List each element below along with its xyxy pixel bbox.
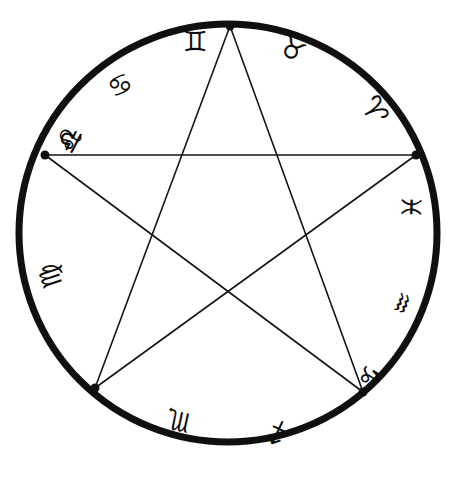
zodiac-sign-gemini[interactable]: ♊ bbox=[182, 28, 207, 56]
pentagram-vertex-bottom-left bbox=[91, 384, 100, 393]
pentagram-edge-right-to-bottom-left bbox=[95, 155, 416, 388]
pentagram-vertex-top-apex bbox=[226, 22, 235, 31]
pentagram-edge-top-apex-to-bottom-right bbox=[230, 26, 363, 392]
pentagram-edges bbox=[45, 26, 416, 392]
pentagram-vertex-right bbox=[412, 151, 421, 160]
pentagram-edge-bottom-right-to-left bbox=[45, 155, 363, 392]
zodiac-wheel-svg bbox=[0, 0, 462, 478]
zodiac-sign-pisces[interactable]: ♓ bbox=[397, 194, 425, 219]
zodiac-pentagram-figure: ♈♉♊♋♌♍♎♏♐♑♒♓ bbox=[0, 0, 462, 478]
pentagram-vertex-left bbox=[41, 151, 50, 160]
